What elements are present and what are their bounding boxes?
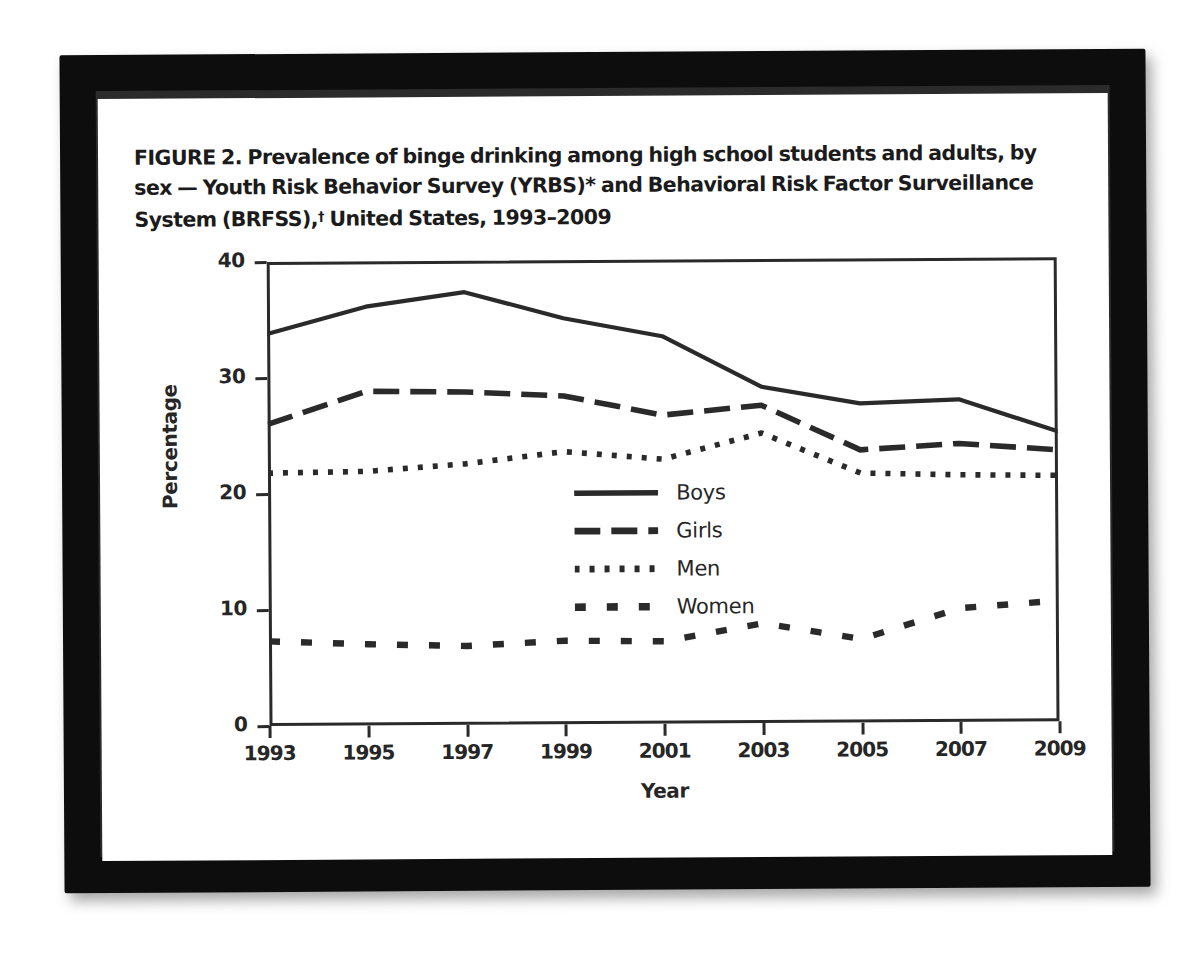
x-tick-label: 2003 — [718, 738, 808, 763]
x-tick-label: 1993 — [225, 741, 315, 766]
legend-label: Girls — [676, 518, 722, 542]
x-axis-label: Year — [270, 776, 1060, 805]
x-tick-mark — [269, 726, 272, 738]
figure-title: FIGURE 2. Prevalence of binge drinking a… — [134, 137, 1065, 235]
y-tick-mark — [256, 493, 268, 496]
x-tick-mark — [960, 722, 963, 734]
legend-item-boys[interactable]: Boys — [574, 473, 824, 513]
x-tick-mark — [861, 722, 864, 734]
figure-title-line-3a: System (BRFSS), — [134, 207, 318, 232]
series-line-girls — [267, 387, 1057, 454]
legend-label: Men — [676, 556, 720, 580]
y-tick-label: 30 — [135, 364, 245, 389]
x-tick-mark — [565, 724, 568, 736]
x-tick-label: 1995 — [323, 740, 413, 765]
y-tick-mark — [255, 377, 267, 380]
legend-item-women[interactable]: Women — [575, 587, 825, 627]
x-tick-label: 1999 — [521, 739, 611, 764]
figure-title-line-2: sex — Youth Risk Behavior Survey (YRBS)*… — [134, 170, 1033, 199]
x-tick-mark — [664, 724, 667, 736]
legend-item-girls[interactable]: Girls — [574, 511, 824, 551]
y-tick-label: 40 — [135, 248, 245, 273]
legend-item-men[interactable]: Men — [574, 549, 824, 589]
x-tick-label: 2001 — [620, 738, 710, 763]
x-tick-label: 1997 — [422, 740, 512, 765]
x-tick-mark — [762, 723, 765, 735]
y-tick-mark — [257, 609, 269, 612]
photo-area: FIGURE 2. Prevalence of binge drinking a… — [0, 0, 1201, 954]
series-line-boys — [267, 289, 1058, 437]
legend-swatch-icon — [575, 560, 659, 579]
x-tick-label: 2009 — [1015, 736, 1105, 761]
chart-legend: BoysGirlsMenWomen — [574, 473, 825, 627]
x-tick-mark — [367, 725, 370, 737]
legend-swatch-icon — [574, 522, 658, 541]
document-page: FIGURE 2. Prevalence of binge drinking a… — [98, 93, 1113, 861]
legend-swatch-icon — [575, 598, 659, 617]
legend-label: Boys — [676, 480, 726, 504]
legend-swatch-icon — [574, 484, 658, 503]
x-tick-mark — [1059, 721, 1062, 733]
figure-title-line-1: FIGURE 2. Prevalence of binge drinking a… — [134, 140, 1037, 170]
y-tick-label: 10 — [137, 596, 247, 621]
legend-label: Women — [677, 594, 755, 618]
x-tick-label: 2007 — [916, 737, 1006, 762]
y-tick-mark — [255, 261, 267, 264]
x-tick-label: 2005 — [817, 737, 907, 762]
chart: Percentage Year 010203040 19931995199719… — [135, 233, 1079, 839]
x-tick-mark — [466, 725, 469, 737]
y-tick-label: 0 — [137, 712, 247, 737]
figure-title-line-3b: United States, 1993–2009 — [324, 205, 611, 231]
y-tick-label: 20 — [136, 480, 246, 505]
